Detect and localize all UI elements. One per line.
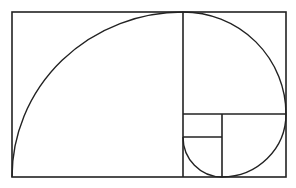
- arc-large: [12, 12, 183, 177]
- arc-small: [183, 137, 222, 177]
- golden-spiral-diagram: [0, 0, 296, 188]
- outer-rectangle: [12, 12, 286, 177]
- spiral-arcs: [12, 12, 286, 177]
- arc-bottom-right: [222, 114, 286, 177]
- arc-top-right: [183, 12, 286, 114]
- divider-lines: [183, 12, 286, 177]
